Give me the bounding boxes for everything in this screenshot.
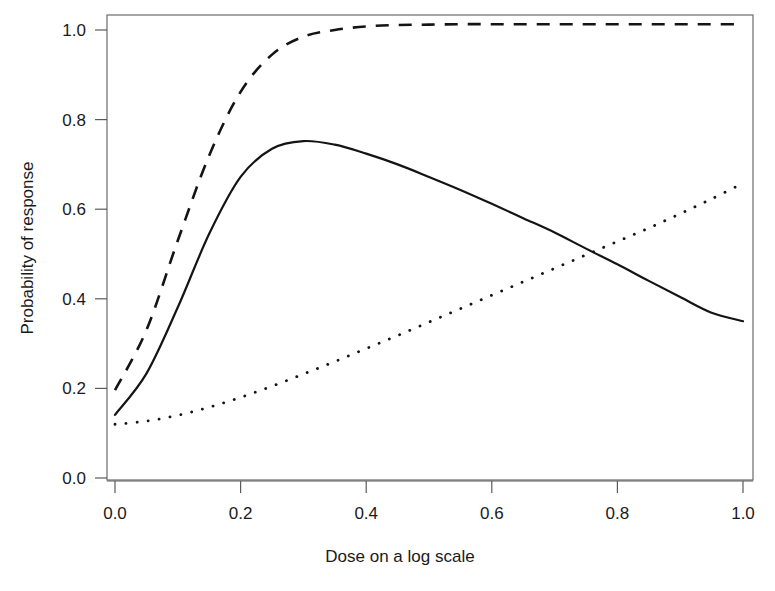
y-tick-label: 0.4 (62, 290, 86, 309)
series-dashed-curve (115, 24, 743, 390)
series-solid-curve (115, 141, 743, 415)
x-tick-label: 0.8 (606, 504, 630, 523)
y-axis: 0.00.20.40.60.81.0 (62, 21, 107, 488)
y-axis-title: Probability of response (18, 162, 37, 335)
y-tick-label: 0.2 (62, 379, 86, 398)
y-tick-label: 0.8 (62, 111, 86, 130)
y-tick-label: 0.6 (62, 200, 86, 219)
x-tick-label: 1.0 (731, 504, 755, 523)
x-axis: 0.00.20.40.60.81.0 (103, 481, 755, 523)
x-tick-label: 0.2 (229, 504, 253, 523)
dose-response-plot: 0.00.20.40.60.81.0 0.00.20.40.60.81.0 Do… (0, 0, 775, 591)
y-tick-label: 1.0 (62, 21, 86, 40)
series-group (115, 24, 743, 424)
chart-figure: 0.00.20.40.60.81.0 0.00.20.40.60.81.0 Do… (0, 0, 775, 591)
x-tick-label: 0.0 (103, 504, 127, 523)
y-tick-label: 0.0 (62, 469, 86, 488)
x-tick-label: 0.4 (354, 504, 378, 523)
series-dotted-curve (115, 183, 743, 424)
x-axis-title: Dose on a log scale (325, 547, 474, 566)
x-tick-label: 0.6 (480, 504, 504, 523)
